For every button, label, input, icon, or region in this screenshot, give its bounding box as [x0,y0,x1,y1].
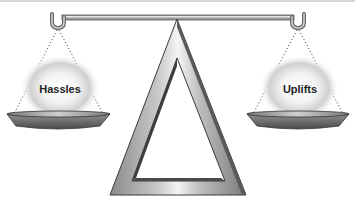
top-border [0,0,355,2]
balance-scale-diagram: Hassles Uplifts [0,0,355,202]
right-pan [247,111,349,129]
right-pan-label: Uplifts [283,83,317,95]
scale-beam [62,15,294,20]
left-pan-label: Hassles [39,83,81,95]
left-pan [7,111,110,129]
fulcrum-triangle [110,19,246,195]
